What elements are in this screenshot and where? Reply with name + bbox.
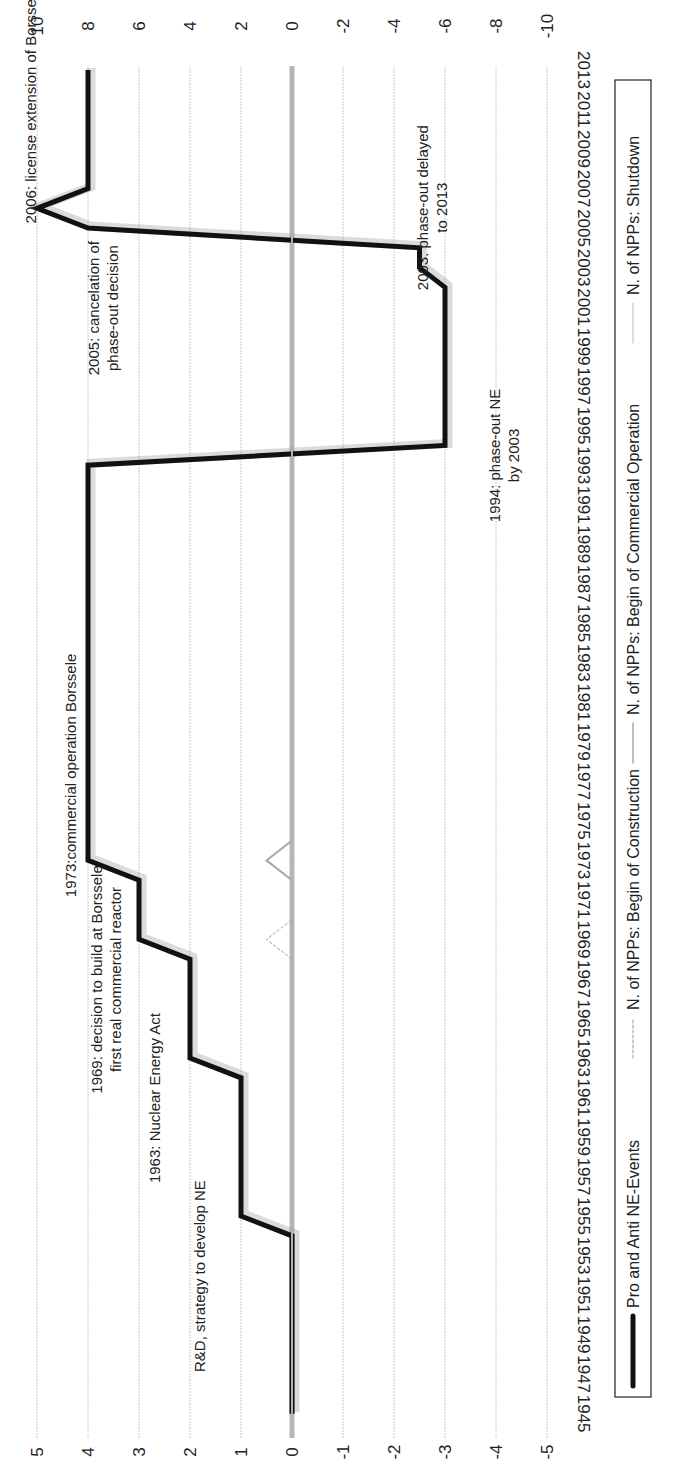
x-axis-year-label: 1985 xyxy=(574,604,593,642)
x-axis-year-label: 1947 xyxy=(574,1355,593,1393)
legend-label: Pro and Anti NE-Events xyxy=(625,1140,642,1308)
x-axis-year-label: 1955 xyxy=(574,1197,593,1235)
legend-label: N. of NPPs: Shutdown xyxy=(625,136,642,295)
x-axis-year-label: 2013 xyxy=(574,51,593,89)
series-line-1 xyxy=(267,70,293,1414)
annotation-label: 1973:commercial operation Borssele xyxy=(62,654,79,897)
x-axis-year-label: 1965 xyxy=(574,1000,593,1038)
x-axis-year-label: 1969 xyxy=(574,921,593,959)
x-axis-years: 1945194719491951195319551957195919611963… xyxy=(574,51,593,1433)
annotation-label: 1969: decision to build at Borssele xyxy=(88,865,105,1093)
x-axis-year-label: 1973 xyxy=(574,841,593,879)
right-axis-tick-label: -6 xyxy=(436,18,455,33)
x-axis-year-label: 1999 xyxy=(574,328,593,366)
legend: Pro and Anti NE-EventsN. of NPPs: Begin … xyxy=(615,80,651,1397)
x-axis-year-label: 1979 xyxy=(574,723,593,761)
x-axis-year-label: 1987 xyxy=(574,565,593,603)
x-axis-year-label: 1961 xyxy=(574,1079,593,1117)
left-axis-tick-label: -3 xyxy=(436,1444,455,1459)
x-axis-year-label: 1949 xyxy=(574,1316,593,1354)
annotation-label: 1963: Nuclear Energy Act xyxy=(146,1012,163,1183)
left-axis-tick-label: 4 xyxy=(79,1447,98,1456)
left-axis-tick-label: 0 xyxy=(283,1447,302,1456)
x-axis-year-label: 2005 xyxy=(574,209,593,247)
x-axis-year-label: 1959 xyxy=(574,1118,593,1156)
left-axis-tick-label: -5 xyxy=(538,1444,557,1459)
annotations: R&D, strategy to develop NE1963: Nuclear… xyxy=(22,0,522,1372)
right-axis-tick-label: -4 xyxy=(385,18,404,33)
x-axis-year-label: 1993 xyxy=(574,446,593,484)
right-axis-tick-label: 10 xyxy=(28,17,47,36)
annotation-label: by 2003 xyxy=(505,429,522,482)
x-axis-year-label: 2003 xyxy=(574,249,593,287)
x-axis-year-label: 1953 xyxy=(574,1237,593,1275)
nuclear-energy-events-chart: R&D, strategy to develop NE1963: Nuclear… xyxy=(0,0,673,1478)
left-axis-tick-label: 5 xyxy=(28,1447,47,1456)
left-axis-tick-label: 3 xyxy=(130,1447,149,1456)
x-axis-year-label: 1975 xyxy=(574,802,593,840)
x-axis-year-label: 1945 xyxy=(574,1395,593,1433)
left-y-axis: 543210-1-2-3-4-5 xyxy=(28,1444,557,1459)
annotation-label: first real commercial reactor xyxy=(107,887,124,1072)
x-axis-year-label: 1991 xyxy=(574,486,593,524)
right-axis-tick-label: 0 xyxy=(283,21,302,30)
x-axis-year-label: 2001 xyxy=(574,288,593,326)
right-axis-tick-label: 4 xyxy=(181,21,200,30)
right-axis-tick-label: -10 xyxy=(538,14,557,39)
left-axis-tick-label: -2 xyxy=(385,1444,404,1459)
x-axis-year-label: 1977 xyxy=(574,762,593,800)
left-axis-tick-label: -4 xyxy=(487,1444,506,1459)
left-axis-tick-label: 2 xyxy=(181,1447,200,1456)
legend-label: N. of NPPs: Begin of Construction xyxy=(625,769,642,1010)
series-line-2 xyxy=(267,70,293,1414)
left-axis-tick-label: -1 xyxy=(334,1444,353,1459)
annotation-label: phase-out decision xyxy=(104,245,121,371)
annotation-label: 2005: cancelation of xyxy=(85,240,102,375)
right-axis-tick-label: -2 xyxy=(334,18,353,33)
x-axis-year-label: 1983 xyxy=(574,644,593,682)
x-axis-year-label: 1997 xyxy=(574,367,593,405)
annotation-label: 1994: phase-out NE xyxy=(486,389,503,522)
right-y-axis: 1086420-2-4-6-8-10 xyxy=(28,14,557,39)
x-axis-year-label: 2009 xyxy=(574,130,593,168)
right-axis-tick-label: 6 xyxy=(130,21,149,30)
annotation-label: to 2013 xyxy=(433,183,450,233)
annotation-label: 2003: phase-out delayed xyxy=(414,125,431,290)
x-axis-year-label: 2011 xyxy=(574,91,593,128)
legend-label: N. of NPPs: Begin of Commercial Operatio… xyxy=(625,404,642,715)
x-axis-year-label: 1967 xyxy=(574,960,593,998)
x-axis-year-label: 1989 xyxy=(574,525,593,563)
annotation-label: R&D, strategy to develop NE xyxy=(191,1180,208,1372)
right-axis-tick-label: 8 xyxy=(79,21,98,30)
x-axis-year-label: 1963 xyxy=(574,1039,593,1077)
left-axis-tick-label: 1 xyxy=(232,1447,251,1456)
x-axis-year-label: 1971 xyxy=(574,881,593,919)
x-axis-year-label: 1981 xyxy=(574,683,593,721)
x-axis-year-label: 1951 xyxy=(574,1276,593,1314)
x-axis-year-label: 1995 xyxy=(574,407,593,445)
right-axis-tick-label: 2 xyxy=(232,21,251,30)
x-axis-year-label: 2007 xyxy=(574,170,593,208)
x-axis-year-label: 1957 xyxy=(574,1158,593,1196)
rotated-chart-container: R&D, strategy to develop NE1963: Nuclear… xyxy=(0,0,673,1478)
right-axis-tick-label: -8 xyxy=(487,18,506,33)
